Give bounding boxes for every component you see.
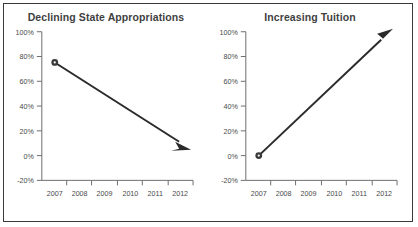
x-tick-label: 2008 bbox=[276, 190, 292, 198]
y-tick-label: 20% bbox=[20, 128, 35, 136]
x-tick-label: 2012 bbox=[172, 190, 188, 198]
x-tick-label: 2008 bbox=[72, 190, 88, 198]
x-tick-label: 2011 bbox=[352, 190, 367, 198]
y-tick-label: 80% bbox=[20, 54, 35, 62]
y-tick-label: 100% bbox=[16, 29, 35, 37]
x-tick-label: 2010 bbox=[122, 190, 138, 198]
y-tick-label: 0% bbox=[228, 153, 239, 161]
y-tick-label: 60% bbox=[224, 78, 239, 86]
x-tick-label: 2009 bbox=[301, 190, 317, 198]
chart-panel-increasing-tuition: Increasing Tuition 100% 80% 60% 40% 20% bbox=[208, 4, 412, 221]
y-tick-label: 40% bbox=[224, 103, 239, 111]
chart-plot-right: 100% 80% 60% 40% 20% 0% -20% 2007 2008 2… bbox=[208, 4, 412, 221]
x-tick-label: 2009 bbox=[97, 190, 113, 198]
data-point-marker-left bbox=[51, 59, 58, 66]
y-tick-label: -20% bbox=[17, 177, 34, 185]
y-tick-label: 80% bbox=[224, 54, 239, 62]
x-tick-label: 2011 bbox=[148, 190, 163, 198]
y-tick-label: 0% bbox=[24, 153, 35, 161]
figure-frame: Declining State Appropriations 100% 80% … bbox=[3, 3, 413, 222]
x-ticks-right bbox=[271, 180, 397, 185]
chart-panel-declining-state-appropriations: Declining State Appropriations 100% 80% … bbox=[4, 4, 208, 221]
y-tick-label: -20% bbox=[221, 177, 238, 185]
x-ticks-left bbox=[67, 180, 193, 185]
data-point-marker-right bbox=[255, 152, 262, 159]
y-tick-label: 40% bbox=[20, 103, 35, 111]
trend-arrowhead-left bbox=[171, 142, 191, 151]
x-tick-label: 2012 bbox=[376, 190, 392, 198]
chart-plot-left: 100% 80% 60% 40% 20% 0% -20% 2007 2008 2… bbox=[4, 4, 208, 221]
x-tick-label: 2010 bbox=[326, 190, 342, 198]
x-tick-label: 2007 bbox=[47, 190, 63, 198]
x-tick-label: 2007 bbox=[251, 190, 267, 198]
trend-line-left bbox=[55, 62, 179, 141]
y-tick-label: 20% bbox=[224, 128, 239, 136]
trend-line-right bbox=[259, 40, 381, 156]
y-ticks-right bbox=[241, 32, 246, 181]
y-ticks-left bbox=[37, 32, 42, 181]
y-tick-label: 60% bbox=[20, 78, 35, 86]
y-tick-label: 100% bbox=[220, 29, 239, 37]
